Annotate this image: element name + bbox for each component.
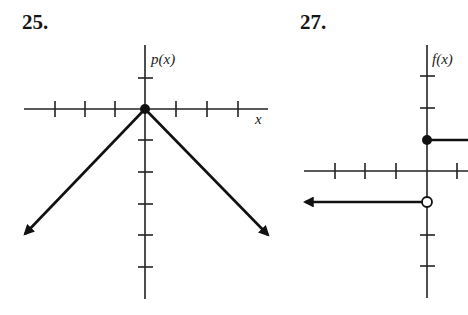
open-dot [422,197,432,207]
graph-27: f(x) [304,45,468,298]
left-branch-arrow [25,109,145,234]
graphs-canvas: p(x) x f(x) [0,0,468,315]
closed-dot [422,135,432,145]
x-axis-label: x [254,111,262,127]
graph-25: p(x) x [24,45,268,299]
closed-dot-vertex [140,104,150,114]
y-axis-label: f(x) [432,51,453,68]
right-branch-arrow [145,109,268,235]
y-axis-label: p(x) [150,51,175,68]
